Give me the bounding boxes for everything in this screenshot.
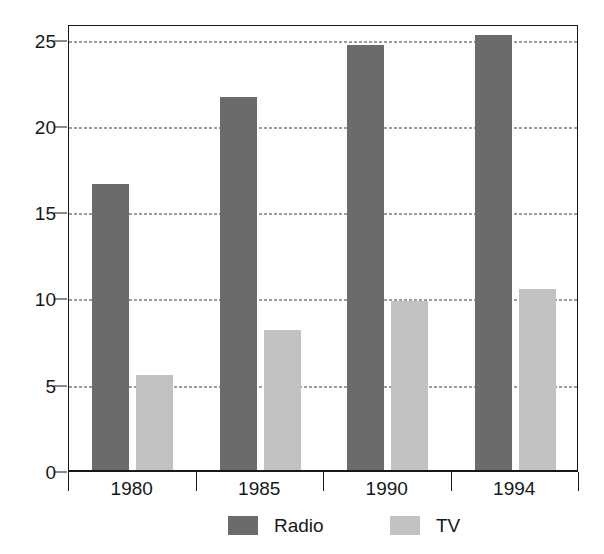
x-axis-category-label-1985: 1985 xyxy=(238,479,280,498)
y-axis-tick-label: 0 xyxy=(22,463,56,482)
y-axis: 0510152025 xyxy=(22,0,56,554)
bar-radio-1994 xyxy=(475,35,512,470)
bar-tv-1980 xyxy=(136,375,173,470)
y-axis-tick-mark xyxy=(54,126,67,127)
y-axis-tick-label: 20 xyxy=(22,117,56,136)
y-axis-tick-label: 15 xyxy=(22,204,56,223)
legend-label: TV xyxy=(436,516,460,535)
y-axis-tick-mark xyxy=(54,213,67,214)
legend-swatch-radio-icon xyxy=(228,516,258,535)
x-axis-tick-mark xyxy=(323,472,324,491)
legend-item-radio[interactable]: Radio xyxy=(228,512,324,538)
bar-radio-1985 xyxy=(220,97,257,470)
bar-tv-1990 xyxy=(391,301,428,470)
legend-item-tv[interactable]: TV xyxy=(390,512,460,538)
bar-tv-1985 xyxy=(264,330,301,470)
y-axis-tick-mark xyxy=(54,385,67,386)
bar-chart: 0510152025 1980198519901994 RadioTV xyxy=(0,0,604,554)
y-axis-tick-label: 25 xyxy=(22,31,56,50)
plot-inner xyxy=(69,26,577,470)
bar-radio-1990 xyxy=(347,45,384,470)
y-axis-tick-mark xyxy=(54,472,67,473)
y-axis-tick-mark xyxy=(54,299,67,300)
x-axis-tick-mark xyxy=(196,472,197,491)
y-axis-tick-label: 10 xyxy=(22,290,56,309)
x-axis-category-label-1980: 1980 xyxy=(111,479,153,498)
x-axis-tick-mark xyxy=(68,472,69,491)
x-axis-category-label-1990: 1990 xyxy=(366,479,408,498)
legend-label: Radio xyxy=(274,516,324,535)
legend-swatch-tv-icon xyxy=(390,516,420,535)
x-axis-category-label-1994: 1994 xyxy=(493,479,535,498)
chart-legend: RadioTV xyxy=(0,512,604,544)
plot-area xyxy=(68,25,578,472)
bar-radio-1980 xyxy=(92,184,129,470)
y-axis-tick-label: 5 xyxy=(22,376,56,395)
x-axis-tick-mark xyxy=(451,472,452,491)
y-axis-tick-mark xyxy=(54,40,67,41)
bar-tv-1994 xyxy=(519,289,556,470)
x-axis-tick-mark xyxy=(578,472,579,491)
